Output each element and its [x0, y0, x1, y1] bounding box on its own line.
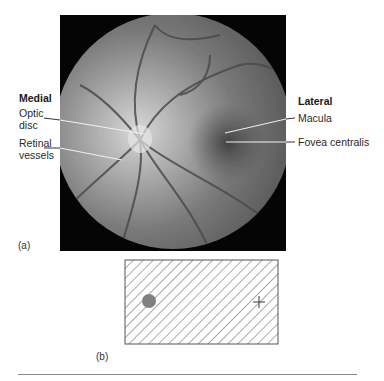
optic-disc-line1: Optic — [19, 107, 44, 119]
medial-heading: Medial — [19, 92, 52, 104]
macula-label: Macula — [298, 112, 332, 124]
bottom-divider — [18, 374, 357, 375]
optic-disc-label: Optic disc — [19, 107, 44, 131]
caption-b: (b) — [96, 351, 108, 362]
fovea-centralis-label: Fovea centralis — [298, 136, 369, 148]
retinal-vessels-line2: vessels — [19, 149, 54, 161]
lateral-heading: Lateral — [298, 95, 332, 107]
optic-disc-line2: disc — [19, 119, 44, 131]
caption-a: (a) — [18, 240, 30, 251]
retinal-vessels-line1: Retinal — [19, 137, 54, 149]
retinal-vessels-label: Retinal vessels — [19, 137, 54, 161]
blind-spot-dot — [142, 294, 156, 308]
blind-spot-test-card — [124, 259, 280, 346]
